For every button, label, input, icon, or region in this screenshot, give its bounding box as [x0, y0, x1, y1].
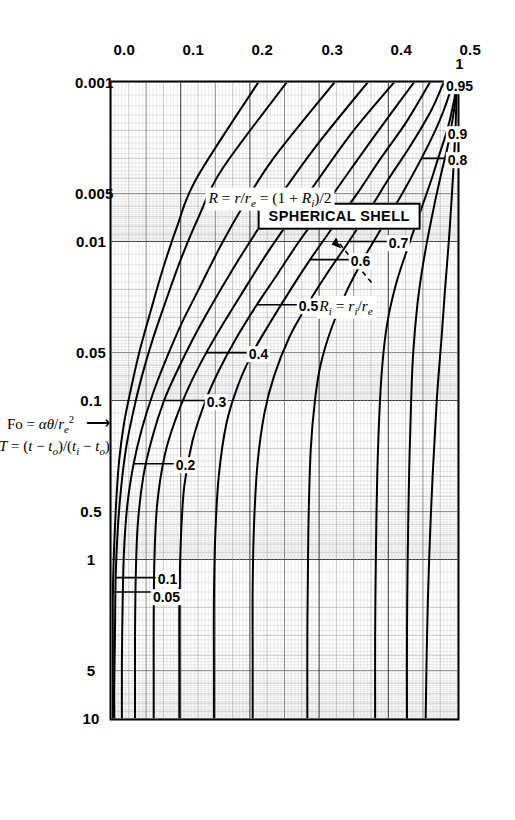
- x-tick-0.1: 0.1: [75, 392, 107, 409]
- curve-label-0.2: 0.2: [174, 458, 197, 474]
- y-tick-0.2: 0.2: [227, 41, 273, 58]
- x-axis-label: Fo = αθ/re2 ⟶: [7, 413, 110, 435]
- curves-svg: [112, 83, 458, 719]
- curve-label-0.3: 0.3: [204, 394, 227, 410]
- y-tick-0.1: 0.1: [158, 41, 204, 58]
- rotated-chart-frame: 0.0010.0050.010.050.10.51510 0.00.10.20.…: [38, 43, 478, 778]
- figure-page: 0.0010.0050.010.050.10.51510 0.00.10.20.…: [0, 0, 515, 820]
- x-tick-5: 5: [75, 662, 107, 679]
- curve-label-0.4: 0.4: [247, 346, 270, 362]
- curve-0.9: [375, 83, 457, 719]
- definition-formula: R = r/re = (1 + Ri)/2: [206, 188, 335, 211]
- x-tick-0.05: 0.05: [75, 344, 107, 361]
- curve-label-0.5: 0.5: [297, 299, 320, 315]
- curve-0.6: [214, 83, 430, 719]
- curve-0.7: [253, 83, 444, 719]
- y-tick-0.4: 0.4: [366, 41, 412, 58]
- curve-label-1: 1: [454, 56, 466, 72]
- curve-layer: [112, 83, 458, 719]
- curve-label-0.8: 0.8: [446, 152, 469, 168]
- x-tick-1: 1: [75, 551, 107, 568]
- chart-area: 0.0010.0050.010.050.10.51510 0.00.10.20.…: [38, 43, 478, 778]
- plot-box: [110, 81, 460, 721]
- curve-label-0.05: 0.05: [151, 590, 182, 606]
- curve-label-0.7: 0.7: [387, 235, 410, 251]
- x-tick-0.01: 0.01: [75, 233, 107, 250]
- x-tick-0.5: 0.5: [75, 503, 107, 520]
- y-tick-0.3: 0.3: [297, 41, 343, 58]
- x-tick-0.001: 0.001: [75, 74, 107, 91]
- y-axis-label: ⟵ T = (t − to)/(ti − to): [0, 435, 110, 457]
- curve-label-0.95: 0.95: [444, 78, 475, 94]
- x-tick-10: 10: [75, 710, 107, 727]
- curve-label-0.6: 0.6: [348, 253, 371, 269]
- curve-label-0.1: 0.1: [156, 571, 179, 587]
- x-tick-0.005: 0.005: [75, 185, 107, 202]
- curve-1: [426, 83, 458, 719]
- curve-label-0.9: 0.9: [446, 126, 469, 142]
- y-tick-0.0: 0.0: [89, 41, 135, 58]
- ri-annotation: Ri = ri/re: [316, 296, 376, 319]
